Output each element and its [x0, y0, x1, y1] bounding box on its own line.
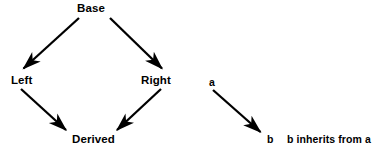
node-label-derived: Derived [72, 134, 115, 146]
node-label-base: Base [77, 3, 105, 15]
edge-left-to-derived [21, 89, 66, 130]
edge-legend-a-to-b [213, 90, 261, 132]
inheritance-diagram: Base Left Right Derived a b b inherits f… [0, 0, 375, 161]
edge-right-to-derived [117, 89, 161, 130]
edge-base-to-right [110, 18, 162, 69]
edge-base-to-left [24, 18, 80, 69]
node-label-left: Left [11, 75, 32, 87]
legend-node-label-b: b [267, 134, 274, 145]
legend-description: b inherits from a [287, 134, 371, 145]
node-label-right: Right [141, 75, 171, 87]
legend-node-label-a: a [209, 77, 215, 88]
